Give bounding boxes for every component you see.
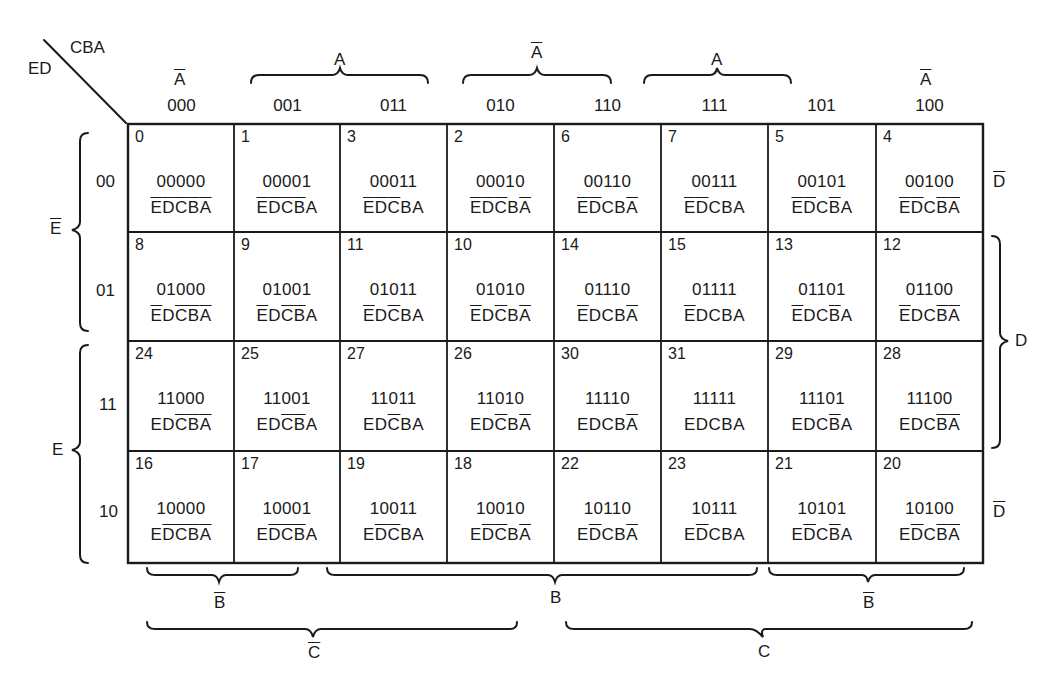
minterm-number: 16	[135, 455, 153, 473]
row-code: 11	[99, 395, 117, 415]
literal-c: C	[709, 525, 722, 544]
literal-c: C	[388, 306, 401, 325]
top-group-label-a-2: A	[711, 50, 722, 70]
column-code: 100	[876, 96, 983, 116]
kmap-cell: 300011EDCBA	[340, 124, 447, 232]
literal-b: B	[188, 306, 200, 325]
minterm-number: 4	[883, 128, 892, 146]
binary-code: 11000	[128, 389, 234, 409]
minterm-number: 14	[561, 236, 579, 254]
literal-c: C	[495, 415, 508, 434]
minterm-literal: EDCBA	[554, 306, 661, 326]
binary-code: 00110	[554, 172, 661, 192]
literal-a: A	[306, 198, 318, 217]
kmap-cell: 3111111EDCBA	[661, 341, 768, 451]
minterm-literal: EDCBA	[768, 415, 876, 435]
kmap-cell: 2611010EDCBA	[447, 341, 554, 451]
minterm-number: 8	[135, 236, 144, 254]
literal-b: B	[829, 415, 841, 434]
literal-a: A	[841, 198, 853, 217]
minterm-number: 7	[668, 128, 677, 146]
literal-e: E	[791, 198, 803, 217]
minterm-number: 19	[347, 455, 365, 473]
literal-c: C	[924, 306, 937, 325]
literal-e: E	[363, 525, 375, 544]
literal-b: B	[829, 198, 841, 217]
minterm-literal: EDCBA	[234, 198, 340, 218]
binary-code: 01111	[661, 280, 768, 300]
kmap-cell: 200010EDCBA	[447, 124, 554, 232]
literal-e: E	[256, 415, 268, 434]
literal-c: C	[495, 306, 508, 325]
literal-b: B	[614, 415, 626, 434]
literal-c: C	[388, 525, 401, 544]
literal-b: B	[294, 415, 306, 434]
literal-a: A	[519, 525, 531, 544]
minterm-literal: EDCBA	[661, 306, 768, 326]
kmap-cell: 1910011EDCBA	[340, 451, 447, 563]
literal-e: E	[150, 525, 162, 544]
literal-a: A	[519, 198, 531, 217]
literal-e: E	[470, 415, 482, 434]
literal-b: B	[507, 525, 519, 544]
binary-code: 10101	[768, 499, 876, 519]
literal-a: A	[519, 306, 531, 325]
minterm-literal: EDCBA	[340, 198, 447, 218]
binary-code: 10010	[447, 499, 554, 519]
literal-b: B	[936, 198, 948, 217]
literal-b: B	[721, 525, 733, 544]
kmap-cell: 100001EDCBA	[234, 124, 340, 232]
literal-c: C	[281, 198, 294, 217]
literal-e: E	[577, 306, 589, 325]
literal-a: A	[306, 525, 318, 544]
literal-d: D	[803, 525, 816, 544]
kmap-cell: 1810010EDCBA	[447, 451, 554, 563]
minterm-literal: EDCBA	[340, 525, 447, 545]
minterm-number: 22	[561, 455, 579, 473]
binary-code: 00101	[768, 172, 876, 192]
literal-d: D	[803, 415, 816, 434]
literal-b: B	[294, 198, 306, 217]
literal-e: E	[791, 306, 803, 325]
bottom-group-label-bbar-1: B	[214, 593, 225, 613]
minterm-literal: EDCBA	[128, 525, 234, 545]
literal-e: E	[899, 415, 911, 434]
minterm-literal: EDCBA	[128, 306, 234, 326]
literal-e: E	[899, 525, 911, 544]
literal-e: E	[684, 306, 696, 325]
literal-d: D	[911, 415, 924, 434]
minterm-number: 12	[883, 236, 901, 254]
literal-d: D	[911, 525, 924, 544]
literal-e: E	[470, 306, 482, 325]
literal-d: D	[696, 198, 709, 217]
binary-code: 00000	[128, 172, 234, 192]
literal-a: A	[733, 198, 745, 217]
literal-e: E	[577, 198, 589, 217]
minterm-literal: EDCBA	[234, 306, 340, 326]
literal-d: D	[696, 306, 709, 325]
binary-code: 01100	[876, 280, 983, 300]
literal-d: D	[589, 415, 602, 434]
literal-a: A	[306, 415, 318, 434]
kmap-cell: 901001EDCBA	[234, 232, 340, 341]
minterm-number: 30	[561, 345, 579, 363]
kmap-cell: 2010100EDCBA	[876, 451, 983, 563]
minterm-number: 5	[775, 128, 784, 146]
corner-col-vars: CBA	[70, 38, 105, 58]
literal-a: A	[948, 198, 960, 217]
kmap-cell: 600110EDCBA	[554, 124, 661, 232]
minterm-number: 31	[668, 345, 686, 363]
minterm-number: 24	[135, 345, 153, 363]
minterm-literal: EDCBA	[447, 306, 554, 326]
kmap-cell: 000000EDCBA	[128, 124, 234, 232]
binary-code: 10111	[661, 499, 768, 519]
minterm-number: 10	[454, 236, 472, 254]
literal-c: C	[175, 198, 188, 217]
row-code: 00	[96, 172, 115, 192]
binary-code: 11001	[234, 389, 340, 409]
binary-code: 00011	[340, 172, 447, 192]
literal-b: B	[614, 198, 626, 217]
binary-code: 10000	[128, 499, 234, 519]
literal-e: E	[256, 198, 268, 217]
column-code: 011	[340, 96, 447, 116]
